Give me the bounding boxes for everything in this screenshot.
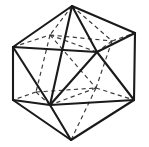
figure-background [0,0,149,147]
polyhedron-figure [0,0,149,147]
icosahedron-drawing [0,0,149,147]
visible-edge-u4-l5 [134,33,135,100]
